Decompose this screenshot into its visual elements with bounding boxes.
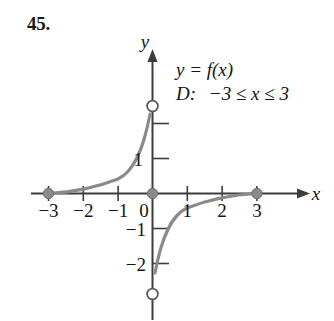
x-tick-label-1: 1	[183, 200, 193, 221]
x-axis-label: x	[311, 183, 321, 204]
annotation-domain-expression: −3 ≤ x ≤ 3	[209, 83, 289, 104]
annotation-function-label: y = f(x)	[174, 59, 233, 81]
y-tick-label--1: −1	[126, 219, 146, 240]
closed-point-left-endpoint	[43, 188, 53, 198]
figure-page: 45.	[0, 0, 334, 321]
annotation-group: y = f(x) D: −3 ≤ x ≤ 3	[174, 59, 289, 104]
y-tick-label--2: −2	[126, 254, 146, 275]
closed-point-origin	[147, 188, 157, 198]
y-axis-label: y	[139, 31, 150, 52]
y-tick-label-1: 1	[134, 149, 144, 170]
curve-branch-right	[155, 194, 257, 274]
open-point-upper-endpoint	[147, 101, 158, 112]
x-tick-label-2: 2	[217, 200, 227, 221]
x-tick-label--3: −3	[38, 200, 58, 221]
annotation-domain-prefix: D:	[175, 83, 196, 104]
closed-point-right-endpoint	[252, 188, 262, 198]
x-axis-arrowhead	[297, 189, 310, 199]
function-graph: y x −3 −2 −1 0 1 2 3 1 −1 −2 y = f(x) D:…	[0, 0, 334, 321]
x-tick-label--1: −1	[108, 200, 128, 221]
open-point-lower-endpoint	[147, 289, 158, 300]
x-tick-label-3: 3	[252, 200, 262, 221]
x-tick-label--2: −2	[73, 200, 93, 221]
x-tick-label-0: 0	[139, 200, 149, 221]
x-tick-labels: −3 −2 −1 0 1 2 3	[38, 200, 261, 221]
annotation-domain: D: −3 ≤ x ≤ 3	[175, 83, 289, 104]
